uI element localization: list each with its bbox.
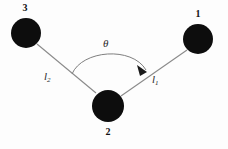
angle-arc [72, 54, 146, 74]
edge-label-l2: l2 [44, 71, 51, 82]
edge-label-l2-subscript: 2 [47, 76, 51, 84]
node-circle-2 [92, 90, 124, 122]
node-circle-1 [183, 24, 213, 54]
edge-line-l2 [37, 44, 96, 93]
node-label-3: 3 [18, 3, 32, 13]
angle-label-theta: θ [103, 38, 108, 49]
edge-label-l1: l1 [152, 74, 159, 85]
edge-label-l1-subscript: 1 [155, 79, 159, 87]
node-circle-3 [11, 18, 41, 48]
angle-arrowhead [137, 65, 147, 76]
node-label-1: 1 [191, 9, 205, 19]
diagram-canvas: 3 1 2 l2 l1 θ [0, 0, 228, 149]
node-label-2: 2 [101, 127, 115, 137]
